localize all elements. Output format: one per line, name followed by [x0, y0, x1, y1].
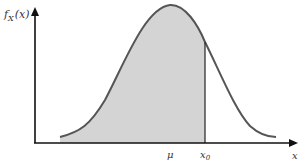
y-axis-label: fX(x): [3, 8, 30, 23]
x-axis-arrow-icon: [289, 139, 298, 147]
mu-label: μ: [167, 149, 174, 160]
shaded-cdf-area: [60, 5, 205, 143]
x0-label: x0: [200, 149, 211, 162]
x-axis-label: x: [292, 150, 298, 161]
normal-pdf-chart: fX(x) μ x0 x: [0, 0, 302, 164]
y-axis-arrow-icon: [31, 7, 39, 16]
